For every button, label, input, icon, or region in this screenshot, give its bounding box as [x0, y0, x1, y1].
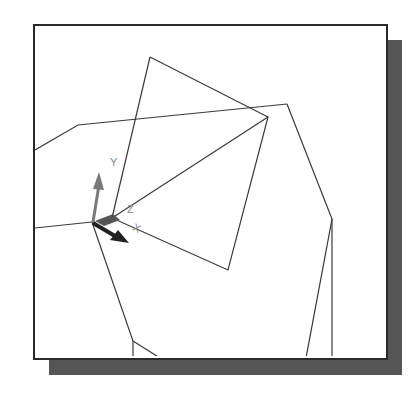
y-axis-arrow-icon	[93, 172, 104, 190]
x-axis-arrow-icon	[110, 230, 129, 243]
wireframe-drawing: Y Z X	[0, 0, 417, 395]
wireframe-edge	[287, 104, 332, 358]
wireframe-lines	[35, 57, 332, 358]
wireframe-edge	[35, 222, 92, 228]
wireframe-edge	[112, 117, 268, 218]
x-axis-label: X	[131, 221, 143, 235]
ucs-icon: Y Z X	[93, 156, 143, 243]
wireframe-edge	[133, 341, 160, 358]
wireframe-edge	[35, 104, 287, 150]
y-axis-label: Y	[110, 156, 118, 168]
wireframe-edge	[112, 57, 268, 270]
z-axis-label: Z	[127, 203, 134, 215]
y-axis-arrow-shaft	[93, 185, 99, 222]
